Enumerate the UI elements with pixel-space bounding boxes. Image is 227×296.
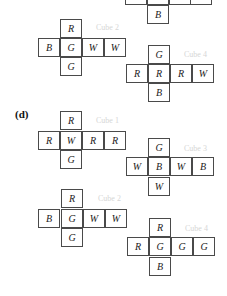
net-cell: R: [82, 131, 104, 150]
cube-label: Cube 3: [184, 144, 207, 153]
net-cell-bottom: B: [149, 257, 171, 276]
net-cell: G: [171, 237, 193, 256]
net-cell: G: [61, 209, 83, 228]
net-cell: G: [149, 237, 171, 256]
net-cell-top: R: [149, 218, 171, 237]
net-cell: B: [148, 157, 170, 176]
section-label-d: (d): [15, 108, 28, 120]
net-cell: [190, 0, 212, 5]
net-cell-bottom: G: [61, 228, 83, 247]
net-cell-bottom: B: [148, 83, 170, 102]
net-cell-top: G: [148, 138, 170, 157]
net-cell: W: [104, 38, 126, 57]
net-cell-top: R: [60, 111, 82, 130]
net-cell: R: [170, 64, 192, 83]
net-cell: W: [82, 38, 104, 57]
cube-label: Cube 2: [98, 194, 121, 203]
net-cell-bottom: G: [60, 150, 82, 169]
net-cell: W: [126, 157, 148, 176]
net-cell: G: [60, 38, 82, 57]
cube-label: Cube 4: [185, 224, 208, 233]
net-cell-top: R: [60, 19, 82, 38]
net-cell: R: [127, 237, 149, 256]
net-cell-top: G: [148, 45, 170, 64]
cube-label: Cube 2: [96, 23, 119, 32]
net-cell: W: [170, 157, 192, 176]
net-cell-top: R: [61, 189, 83, 208]
net-cell: W: [83, 209, 105, 228]
net-cell-bottom: B: [147, 5, 169, 24]
net-cell: [169, 0, 191, 5]
net-cell: [125, 0, 147, 5]
net-cell: B: [38, 209, 60, 228]
cube-label: Cube 1: [96, 116, 119, 125]
net-cell: W: [192, 64, 214, 83]
net-cell: W: [60, 131, 82, 150]
net-cell: R: [38, 131, 60, 150]
net-cell: R: [148, 64, 170, 83]
net-cell: G: [193, 237, 215, 256]
net-cell: R: [126, 64, 148, 83]
net-cell: B: [192, 157, 214, 176]
net-cell: B: [38, 38, 60, 57]
net-cell-bottom: G: [60, 57, 82, 76]
net-cell-bottom: W: [148, 177, 170, 196]
net-cell: W: [105, 209, 127, 228]
net-cell: R: [104, 131, 126, 150]
cube-label: Cube 4: [184, 50, 207, 59]
